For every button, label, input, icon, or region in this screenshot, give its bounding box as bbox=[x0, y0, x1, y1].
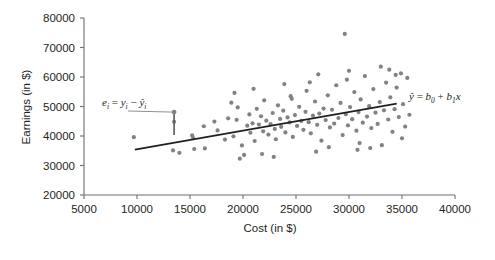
scatter-point bbox=[330, 108, 334, 112]
x-tick-label: 15000 bbox=[174, 203, 206, 215]
x-tick-label: 20000 bbox=[227, 203, 259, 215]
scatter-point bbox=[354, 129, 358, 133]
y-tick-label: 20000 bbox=[43, 189, 75, 201]
scatter-point bbox=[202, 124, 206, 128]
scatter-point bbox=[274, 137, 278, 141]
scatter-point bbox=[345, 78, 349, 82]
residual-minus: − bbox=[128, 96, 140, 108]
scatter-point bbox=[264, 119, 268, 123]
scatter-point bbox=[341, 133, 345, 137]
scatter-point bbox=[314, 150, 318, 154]
scatter-point bbox=[192, 147, 196, 151]
scatter-point bbox=[291, 135, 295, 139]
scatter-point bbox=[255, 107, 259, 111]
x-tick-label: 40000 bbox=[439, 203, 471, 215]
x-tick-label: 10000 bbox=[121, 203, 153, 215]
y-axis-title: Earnings (in $) bbox=[20, 69, 32, 144]
scatter-point bbox=[272, 155, 276, 159]
scatter-point bbox=[376, 122, 380, 126]
y-tick-label: 40000 bbox=[43, 130, 75, 142]
y-tick-label: 70000 bbox=[43, 42, 75, 54]
scatter-point bbox=[403, 124, 407, 128]
scatter-point bbox=[324, 118, 328, 122]
x-tick-label: 25000 bbox=[280, 203, 312, 215]
scatter-point bbox=[279, 125, 283, 129]
scatter-point bbox=[311, 114, 315, 118]
scatter-point bbox=[388, 95, 392, 99]
scatter-point bbox=[378, 100, 382, 104]
scatter-point bbox=[326, 93, 330, 97]
scatter-point bbox=[386, 117, 390, 121]
scatter-point bbox=[363, 74, 367, 78]
scatter-point bbox=[407, 113, 411, 117]
scatter-point bbox=[384, 81, 388, 85]
scatter-point bbox=[321, 106, 325, 110]
scatter-point bbox=[359, 97, 363, 101]
scatter-point bbox=[260, 152, 264, 156]
scatter-point bbox=[215, 128, 219, 132]
scatter-point bbox=[400, 136, 404, 140]
scatter-point bbox=[319, 139, 323, 143]
scatter-point bbox=[245, 124, 249, 128]
residual-yhat-subscript: i bbox=[144, 102, 146, 111]
scatter-point bbox=[278, 117, 282, 121]
scatter-point bbox=[252, 87, 256, 91]
scatter-point bbox=[397, 115, 401, 119]
scatter-point bbox=[236, 105, 240, 109]
scatter-point bbox=[177, 151, 181, 155]
scatter-point bbox=[332, 122, 336, 126]
scatter-point bbox=[231, 134, 235, 138]
scatter-point bbox=[373, 111, 377, 115]
scatter-point bbox=[259, 114, 263, 118]
scatter-point bbox=[358, 141, 362, 145]
scatter-point bbox=[282, 82, 286, 86]
scatter-point bbox=[343, 32, 347, 36]
scatter-point bbox=[229, 101, 233, 105]
scatter-point bbox=[399, 71, 403, 75]
y-tick-label: 80000 bbox=[43, 12, 75, 24]
y-tick-label: 50000 bbox=[43, 101, 75, 113]
scatter-point bbox=[253, 139, 257, 143]
scatter-point bbox=[365, 114, 369, 118]
scatter-point bbox=[235, 118, 239, 122]
x-tick-label: 5000 bbox=[71, 203, 97, 215]
chart-canvas: 20000300004000050000600007000080000 5000… bbox=[0, 0, 495, 260]
scatter-point bbox=[293, 113, 297, 117]
scatter-point bbox=[295, 124, 299, 128]
scatter-point bbox=[313, 99, 317, 103]
scatter-point bbox=[297, 105, 301, 109]
scatter-point bbox=[257, 122, 261, 126]
fit-x: x bbox=[455, 90, 461, 102]
scatter-point bbox=[394, 73, 398, 77]
scatter-point bbox=[405, 76, 409, 80]
scatter-point bbox=[361, 121, 365, 125]
scatter-point bbox=[248, 131, 252, 135]
x-tick-label: 35000 bbox=[386, 203, 418, 215]
scatter-point bbox=[266, 132, 270, 136]
scatter-point bbox=[327, 145, 331, 149]
scatter-point bbox=[371, 87, 375, 91]
scatter-point bbox=[328, 125, 332, 129]
scatter-point bbox=[226, 116, 230, 120]
scatter-point bbox=[271, 111, 275, 115]
fit-equals: = bbox=[414, 90, 426, 102]
scatter-point bbox=[247, 112, 251, 116]
scatter-point bbox=[308, 80, 312, 84]
scatter-point bbox=[315, 123, 319, 127]
scatter-point bbox=[240, 143, 244, 147]
scatter-point bbox=[305, 89, 309, 93]
x-tick-label: 30000 bbox=[333, 203, 365, 215]
scatter-point bbox=[203, 146, 207, 150]
scatter-point bbox=[355, 148, 359, 152]
scatter-point bbox=[334, 83, 338, 87]
scatter-point bbox=[303, 110, 307, 114]
scatter-point bbox=[368, 146, 372, 150]
scatter-point bbox=[316, 72, 320, 76]
scatter-point bbox=[276, 103, 280, 107]
scatter-point bbox=[387, 68, 391, 72]
scatter-point bbox=[390, 130, 394, 134]
scatter-point bbox=[307, 120, 311, 124]
residual-equals: = bbox=[109, 96, 121, 108]
scatter-point bbox=[261, 129, 265, 133]
x-axis-title: Cost (in $) bbox=[243, 222, 296, 234]
